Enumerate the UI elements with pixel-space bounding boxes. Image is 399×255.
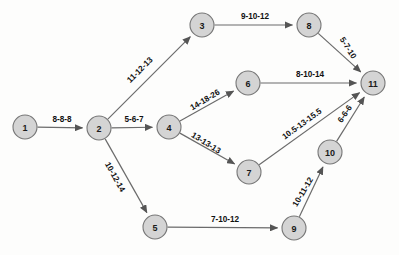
node-circle-2[interactable] [87,116,111,140]
node-circle-1[interactable] [13,115,37,139]
edges-layer [37,25,364,228]
edge-label-7-to-11: 10.5-13-15.5 [281,106,324,141]
node-11[interactable]: 11 [361,71,385,95]
node-5[interactable]: 5 [143,215,167,239]
node-circle-9[interactable] [282,216,306,240]
node-circle-5[interactable] [143,215,167,239]
node-circle-4[interactable] [157,115,181,139]
node-circle-3[interactable] [190,13,214,37]
node-3[interactable]: 3 [190,13,214,37]
nodes-layer: 1234567891011 [13,13,385,240]
node-circle-6[interactable] [236,71,260,95]
network-diagram-svg: 1234567891011 8-8-811-12-135-6-710-12-14… [0,0,399,255]
node-8[interactable]: 8 [297,13,321,37]
edge-label-3-to-8: 9-10-12 [241,12,270,21]
edge-5-to-9 [167,227,277,228]
edge-2-to-4 [111,127,152,128]
node-7[interactable]: 7 [237,160,261,184]
node-circle-8[interactable] [297,13,321,37]
node-10[interactable]: 10 [318,140,342,164]
node-1[interactable]: 1 [13,115,37,139]
network-diagram-canvas: 1234567891011 8-8-811-12-135-6-710-12-14… [0,0,399,255]
edge-9-to-10 [299,167,323,217]
node-2[interactable]: 2 [87,116,111,140]
node-circle-11[interactable] [361,71,385,95]
edge-label-2-to-3: 11-12-13 [125,55,155,85]
edge-label-10-to-11: 6-6-6 [336,103,354,124]
edge-label-2-to-4: 5-6-7 [124,115,144,124]
node-9[interactable]: 9 [282,216,306,240]
edge-label-6-to-11: 8-10-14 [296,70,325,79]
edge-label-1-to-2: 8-8-8 [52,115,72,124]
node-6[interactable]: 6 [236,71,260,95]
edge-1-to-2 [37,127,82,128]
edge-2-to-3 [108,37,190,119]
edge-label-5-to-9: 7-10-12 [211,215,240,224]
edge-label-4-to-7: 13-13-13 [190,130,223,155]
edge-2-to-5 [105,139,147,213]
edge-8-to-11 [318,33,361,72]
edge-4-to-7 [180,133,235,164]
node-circle-7[interactable] [237,160,261,184]
edge-10-to-11 [337,97,365,141]
edge-label-2-to-5: 10-12-14 [103,160,127,193]
node-4[interactable]: 4 [157,115,181,139]
edge-label-8-to-11: 5-7-10 [338,36,358,61]
edge-4-to-6 [180,91,234,121]
node-circle-10[interactable] [318,140,342,164]
